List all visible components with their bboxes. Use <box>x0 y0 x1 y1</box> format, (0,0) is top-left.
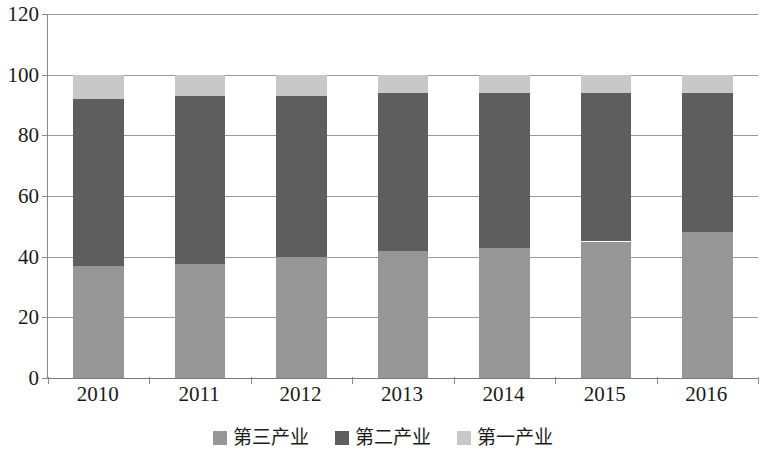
bar-segment <box>378 75 429 93</box>
bar-group <box>175 14 226 378</box>
chart-legend: 第三产业第二产业第一产业 <box>0 428 766 451</box>
x-tick-label-2012: 2012 <box>280 382 322 407</box>
x-tick-label-2015: 2015 <box>584 382 626 407</box>
bar-group <box>682 14 733 378</box>
bar-segment <box>73 99 124 266</box>
y-tick-label-60: 60 <box>18 186 39 207</box>
bar-segment <box>479 248 530 378</box>
bar-segment <box>276 75 327 96</box>
y-tick-label-20: 20 <box>18 307 39 328</box>
gridline-0 <box>48 378 758 379</box>
stacked-bar-chart: 020406080100120 201020112012201320142015… <box>0 0 766 451</box>
bar-segment <box>175 96 226 264</box>
plot-area <box>47 14 758 378</box>
bar-segment <box>378 93 429 251</box>
bar-segment <box>73 75 124 99</box>
legend-item[interactable]: 第二产业 <box>335 428 431 447</box>
x-tick-label-2011: 2011 <box>179 382 220 407</box>
bar-group <box>479 14 530 378</box>
bar-segment <box>378 251 429 378</box>
bar-segment <box>175 264 226 378</box>
bar-segment <box>682 232 733 378</box>
bar-segment <box>581 93 632 242</box>
bar-segment <box>581 242 632 379</box>
legend-item[interactable]: 第一产业 <box>457 428 553 447</box>
bar-segment <box>479 75 530 93</box>
bars-layer <box>48 14 758 378</box>
bar-segment <box>581 75 632 93</box>
legend-label: 第一产业 <box>477 428 553 447</box>
bar-segment <box>479 93 530 248</box>
x-axis-tick-labels: 2010201120122013201420152016 <box>47 382 758 412</box>
y-tick-label-80: 80 <box>18 125 39 146</box>
bar-segment <box>276 96 327 257</box>
legend-label: 第三产业 <box>233 428 309 447</box>
y-tick-label-0: 0 <box>29 368 40 389</box>
y-tick-label-100: 100 <box>8 64 40 85</box>
legend-item[interactable]: 第三产业 <box>213 428 309 447</box>
x-tick-label-2014: 2014 <box>482 382 524 407</box>
bar-group <box>276 14 327 378</box>
x-tick-label-2010: 2010 <box>77 382 119 407</box>
bar-group <box>378 14 429 378</box>
bar-group <box>581 14 632 378</box>
y-tick-label-120: 120 <box>8 4 40 25</box>
bar-segment <box>73 266 124 378</box>
bar-group <box>73 14 124 378</box>
legend-swatch-primary <box>457 431 471 445</box>
legend-label: 第二产业 <box>355 428 431 447</box>
legend-swatch-secondary <box>335 431 349 445</box>
y-axis-tick-labels: 020406080100120 <box>0 0 47 392</box>
y-tick-label-40: 40 <box>18 246 39 267</box>
x-tick-mark <box>758 377 759 384</box>
bar-segment <box>175 75 226 96</box>
bar-segment <box>682 75 733 93</box>
legend-swatch-tertiary <box>213 431 227 445</box>
x-tick-label-2016: 2016 <box>685 382 727 407</box>
bar-segment <box>276 257 327 378</box>
x-tick-label-2013: 2013 <box>381 382 423 407</box>
bar-segment <box>682 93 733 233</box>
